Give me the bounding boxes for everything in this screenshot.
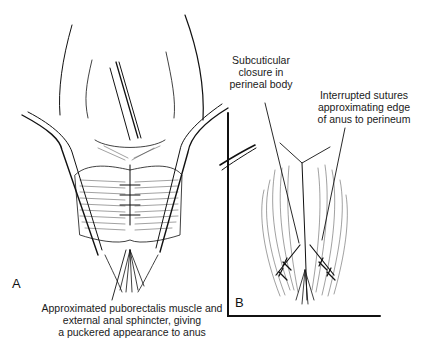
label-line: perineal body — [216, 78, 306, 90]
panel-a-caption: Approximated puborectalis muscle and ext… — [22, 302, 242, 338]
label-line: Subcuticular — [216, 54, 306, 66]
panel-a-drawing — [22, 15, 228, 300]
surgical-illustration — [0, 0, 424, 352]
interrupted-sutures-label: Interrupted sutures approximating edge o… — [310, 89, 418, 125]
caption-line: Approximated puborectalis muscle and — [22, 302, 242, 314]
label-line: closure in — [216, 66, 306, 78]
caption-line: external anal sphincter, giving — [22, 314, 242, 326]
panel-b-letter: B — [235, 295, 244, 310]
caption-line: a puckered appearance to anus — [22, 326, 242, 338]
label-line: approximating edge — [310, 101, 418, 113]
label-line: Interrupted sutures — [310, 89, 418, 101]
panel-b-drawing — [220, 103, 347, 304]
subcuticular-closure-label: Subcuticular closure in perineal body — [216, 54, 306, 90]
label-line: of anus to perineum — [310, 113, 418, 125]
panel-a-letter: A — [12, 276, 21, 291]
